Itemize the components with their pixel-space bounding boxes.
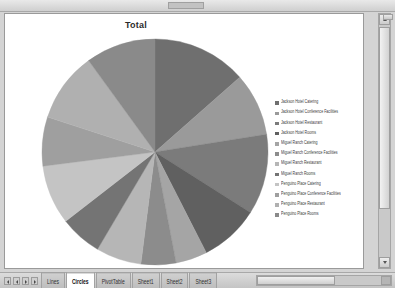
legend-item[interactable]: Penguino Place Restaurant [275,200,363,210]
legend-item-label: Miguel Ranch Rooms [281,172,315,176]
triangle-right-icon [34,280,36,284]
legend-item[interactable]: Penguino Place Catering [275,180,363,190]
legend-item[interactable]: Miguel Ranch Restaurant [275,159,363,169]
legend-item-label: Miguel Ranch Conference Facilities [281,152,338,156]
legend-item-label: Miguel Ranch Catering [281,142,318,146]
sheet-tab-sheet3[interactable]: Sheet3 [189,272,217,288]
legend-item-label: Miguel Ranch Restaurant [281,162,322,166]
legend-item[interactable]: Miguel Ranch Conference Facilities [275,149,363,159]
next-sheet-button[interactable] [22,277,29,285]
horizontal-scroll-right-button[interactable] [381,276,391,285]
legend-color-swatch [275,213,279,217]
legend-item-label: Jackson Hotel Restaurant [281,121,322,125]
legend-color-swatch [275,193,279,197]
legend-item[interactable]: Jackson Hotel Conference Facilities [275,108,363,118]
legend-item-label: Penguino Place Rooms [281,213,319,217]
triangle-left-icon [16,280,18,284]
split-pane-handle[interactable] [383,14,393,20]
legend-item-label: Jackson Hotel Rooms [281,131,316,135]
pie-slice-group [42,39,268,265]
legend-item[interactable]: Jackson Hotel Restaurant [275,118,363,128]
sheet-tab-circles[interactable]: Circles [66,272,95,288]
legend-item-label: Jackson Hotel Catering [281,101,318,105]
legend-color-swatch [275,173,279,177]
legend-item[interactable]: Penguino Place Rooms [275,210,363,220]
sheet-tab-pivottable[interactable]: PivotTable [96,272,131,288]
previous-sheet-button[interactable] [13,277,20,285]
sheet-navigation-buttons [0,277,41,285]
legend-item[interactable]: Miguel Ranch Catering [275,139,363,149]
legend-item-label: Penguino Place Catering [281,182,321,186]
sheet-tab-bar: LinesCirclesPivotTableSheet1Sheet2Sheet3 [0,272,395,288]
legend-item[interactable]: Jackson Hotel Rooms [275,129,363,139]
sheet-tab-sheet1[interactable]: Sheet1 [132,272,160,288]
scroll-down-button[interactable] [379,257,390,268]
sheet-tab-sheet2[interactable]: Sheet2 [161,272,189,288]
legend-item-label: Penguino Place Conference Facilities [281,193,341,197]
legend-item-label: Penguino Place Restaurant [281,203,325,207]
last-sheet-button[interactable] [31,277,38,285]
chart-plot-area[interactable]: Total Jackson Hotel CateringJackson Hote… [5,14,363,268]
legend-color-swatch [275,203,279,207]
legend-color-swatch [275,122,279,126]
pie-chart-svg [41,38,269,266]
triangle-left-icon [7,280,9,284]
window-handle-notch [168,2,204,9]
triangle-right-icon [25,280,27,284]
legend-color-swatch [275,142,279,146]
pie-chart[interactable] [41,38,269,266]
chart-sheet-frame: Total Jackson Hotel CateringJackson Hote… [4,13,364,269]
legend-color-swatch [275,101,279,105]
horizontal-scrollbar[interactable] [256,275,392,286]
legend-item-label: Jackson Hotel Conference Facilities [281,111,338,115]
chart-title: Total [5,20,267,30]
vertical-scrollbar-thumb[interactable] [379,27,390,209]
legend-color-swatch [275,162,279,166]
legend-color-swatch [275,132,279,136]
sheet-tab-lines[interactable]: Lines [41,272,65,288]
vertical-scrollbar[interactable] [378,13,391,269]
legend-item[interactable]: Jackson Hotel Catering [275,98,363,108]
chevron-down-icon [383,261,387,264]
legend-item[interactable]: Penguino Place Conference Facilities [275,190,363,200]
window-top-strip [0,0,395,12]
legend-color-swatch [275,152,279,156]
first-sheet-button[interactable] [4,277,11,285]
horizontal-scrollbar-thumb[interactable] [257,276,335,285]
legend-color-swatch [275,183,279,187]
chart-legend: Jackson Hotel CateringJackson Hotel Conf… [275,98,363,220]
sheet-tabs: LinesCirclesPivotTableSheet1Sheet2Sheet3 [41,273,218,288]
legend-item[interactable]: Miguel Ranch Rooms [275,169,363,179]
legend-color-swatch [275,112,279,116]
spreadsheet-window: Total Jackson Hotel CateringJackson Hote… [0,0,395,288]
